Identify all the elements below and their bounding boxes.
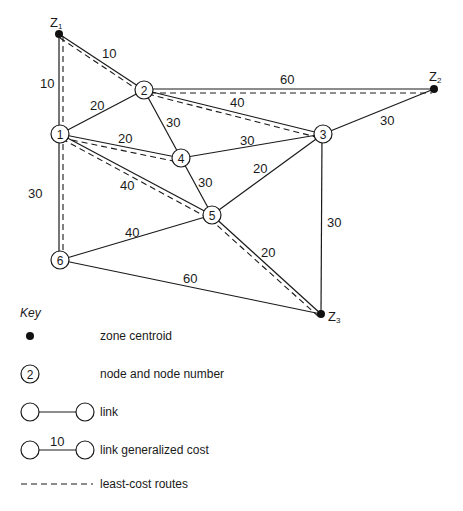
network-diagram: Z1 Z2 Z3 1 2 3 4 5 6 10 10 20 60 40 30 2… [0, 0, 463, 511]
cost-2-4: 30 [166, 115, 180, 130]
cost-1-2: 20 [90, 98, 104, 113]
svg-text:10: 10 [50, 434, 64, 449]
key-link-text: link [100, 405, 118, 419]
key-title: Key [20, 306, 41, 320]
links [59, 34, 434, 314]
centroid-z1 [55, 30, 63, 38]
key-symbols: 2 10 [21, 332, 94, 484]
svg-text:6: 6 [57, 254, 64, 268]
key-centroid-icon [26, 332, 34, 340]
node-2: 2 [135, 81, 153, 99]
least-cost-routes [60, 36, 432, 316]
cost-6-5: 40 [125, 225, 139, 240]
z3-label: Z3 [328, 309, 341, 325]
cost-1-4: 20 [118, 131, 132, 146]
cost-5-z3: 20 [261, 245, 275, 260]
key-link-cost-text: link generalized cost [100, 443, 209, 457]
key-zone-centroid-text: zone centroid [100, 329, 172, 343]
node-3: 3 [314, 125, 332, 143]
svg-text:4: 4 [178, 152, 185, 166]
link-costs: 10 10 20 60 40 30 20 30 30 40 30 20 30 4… [28, 46, 394, 286]
link-3-z3 [321, 134, 322, 314]
cost-2-3: 40 [230, 95, 244, 110]
z1-label: Z1 [50, 15, 63, 31]
key-node-icon: 2 [21, 365, 39, 383]
svg-text:2: 2 [141, 84, 148, 98]
link-z1-2 [59, 34, 144, 90]
cost-5-3: 20 [253, 161, 267, 176]
svg-text:2: 2 [27, 368, 34, 382]
cost-3-z3: 30 [327, 215, 341, 230]
link-5-3 [212, 134, 323, 215]
cost-z1-1: 10 [40, 76, 54, 91]
cost-4-5: 30 [198, 175, 212, 190]
svg-text:3: 3 [320, 128, 327, 142]
key-link-icon [21, 403, 94, 421]
link-1-5 [60, 134, 212, 215]
cost-z1-2: 10 [102, 46, 116, 61]
cost-3-z2: 30 [380, 113, 394, 128]
node-4: 4 [172, 149, 190, 167]
cost-4-3: 30 [240, 133, 254, 148]
centroid-labels: Z1 Z2 Z3 [50, 15, 442, 325]
route-5-z3 [210, 219, 318, 316]
cost-6-z3: 60 [183, 271, 197, 286]
link-5-z3 [212, 215, 321, 314]
key-least-cost-text: least-cost routes [100, 477, 188, 491]
svg-text:5: 5 [209, 209, 216, 223]
cost-2-z2: 60 [280, 72, 294, 87]
cost-1-5: 40 [120, 178, 134, 193]
cost-1-6: 30 [28, 186, 42, 201]
link-3-z2 [323, 89, 434, 134]
centroid-z3 [317, 310, 325, 318]
z2-label: Z2 [429, 69, 442, 85]
route-1-5 [62, 139, 210, 219]
node-6: 6 [51, 251, 69, 269]
node-5: 5 [203, 206, 221, 224]
centroid-z2 [430, 85, 438, 93]
key-node-text: node and node number [100, 367, 224, 381]
node-1: 1 [51, 125, 69, 143]
link-6-z3 [60, 260, 321, 314]
svg-text:1: 1 [57, 128, 64, 142]
